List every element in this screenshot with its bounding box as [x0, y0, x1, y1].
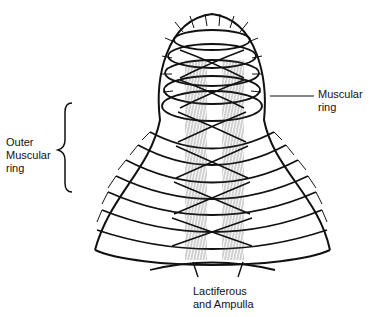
label-line: Muscular: [318, 88, 374, 101]
muscular-ring-bands: [162, 30, 262, 121]
label-line: Lactiferous: [193, 285, 303, 298]
label-line: Muscular: [6, 149, 66, 162]
edge-cells: [97, 14, 327, 222]
label-line: Outer: [6, 136, 66, 149]
lactiferous-label: Lactiferous and Ampulla: [193, 285, 303, 311]
label-line: ring: [318, 101, 374, 114]
lactiferous-ducts: [185, 60, 244, 260]
outer-silhouette: [95, 14, 330, 265]
muscular-ring-label: Muscular ring: [318, 88, 374, 114]
label-line: and Ampulla: [193, 298, 303, 311]
outer-muscular-ring-label: Outer Muscular ring: [6, 136, 66, 175]
label-line: ring: [6, 162, 66, 175]
